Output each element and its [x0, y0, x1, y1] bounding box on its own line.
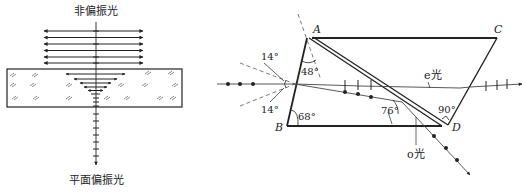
angle-label-14-bottom: 14°: [261, 104, 279, 115]
angle-label-90: 90°: [438, 104, 456, 115]
absorbing-arrows: [66, 74, 125, 94]
e-ray-label: e光: [424, 68, 442, 82]
balsam-layer-line-1: [309, 38, 442, 126]
title-unpolarized: 非偏振光: [74, 4, 118, 18]
vertex-c-label: C: [494, 23, 503, 36]
angle-label-68: 68°: [298, 111, 316, 122]
title-plane-polarized: 平面偏振光: [69, 173, 124, 187]
right-diagram: A B C D 14° 14° 48° 68° 76° 90° e光 o光: [217, 14, 522, 175]
left-diagram: 非偏振光: [7, 4, 182, 187]
right-angle-marker: [442, 116, 449, 120]
angle-label-14-top: 14°: [261, 51, 279, 62]
o-ray-label: o光: [407, 147, 425, 161]
crystal-hatching: [10, 71, 178, 100]
angle-label-48: 48°: [301, 66, 319, 77]
vertex-b-label: B: [274, 121, 283, 134]
vertex-a-label: A: [312, 23, 321, 36]
leader-lines: [264, 63, 392, 124]
unpolarized-arrows: [44, 31, 143, 63]
construction-lines: [240, 14, 321, 106]
angle-label-76: 76°: [381, 105, 399, 116]
o-ray-exit: [402, 102, 470, 175]
e-ray-exit: [470, 84, 522, 87]
diagram-canvas: 非偏振光: [0, 0, 522, 192]
vertex-d-label: D: [451, 121, 461, 134]
